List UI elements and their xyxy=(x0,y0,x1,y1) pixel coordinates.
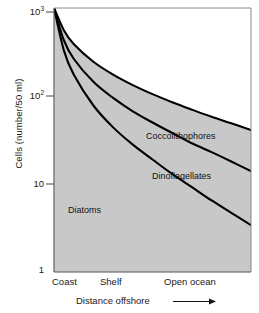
y-axis-ticks xyxy=(46,12,54,184)
y-tick-1: 1 xyxy=(8,264,44,275)
y-tick-100: 102 xyxy=(8,89,44,101)
phytoplankton-distribution-chart: Cells (number/50 ml) 103 102 10 1 Coast … xyxy=(0,0,259,313)
x-tick-open-ocean: Open ocean xyxy=(164,276,216,287)
label-diatoms: Diatoms xyxy=(68,205,101,215)
x-tick-shelf: Shelf xyxy=(100,276,122,287)
y-tick-1000-base: 10 xyxy=(30,6,41,17)
x-axis-title-group: Distance offshore xyxy=(76,295,217,306)
y-tick-10-base: 10 xyxy=(33,178,44,189)
arrow-right-icon xyxy=(173,295,217,306)
x-axis-title: Distance offshore xyxy=(76,295,150,306)
x-tick-coast: Coast xyxy=(52,276,77,287)
y-tick-10: 10 xyxy=(8,178,44,189)
label-dinoflagellates: Dinoflagellates xyxy=(152,171,211,181)
y-tick-100-exp: 2 xyxy=(40,89,44,96)
y-tick-100-base: 10 xyxy=(30,90,41,101)
y-tick-1-base: 1 xyxy=(39,264,44,275)
y-tick-1000: 103 xyxy=(8,5,44,17)
y-tick-1000-exp: 3 xyxy=(40,5,44,12)
label-coccolithophores: Coccolithophores xyxy=(146,131,216,141)
